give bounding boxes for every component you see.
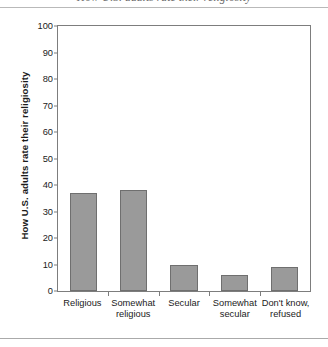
y-axis-tick-mark [54, 185, 58, 186]
y-axis-tick-mark [54, 52, 58, 53]
y-axis-tick-mark [54, 132, 58, 133]
bottom-divider [0, 338, 328, 339]
y-axis-tick-mark [54, 238, 58, 239]
y-axis-tick-mark [54, 211, 58, 212]
x-axis-tick-mark [209, 291, 210, 296]
page-caption: How U.S. adults rate their religiosity [0, 0, 328, 7]
y-axis-tick-mark [54, 264, 58, 265]
bar-cell [58, 26, 108, 291]
bar-cell [209, 26, 259, 291]
x-axis-tick-label-line: Secular [159, 298, 210, 309]
bar-cell [108, 26, 158, 291]
x-axis-tick-label-line: religious [108, 309, 159, 320]
bar-series [58, 26, 310, 291]
x-axis-tick-label: Secular [159, 298, 210, 321]
y-axis-tick-mark [54, 79, 58, 80]
bar-cell [159, 26, 209, 291]
plot-area: 0102030405060708090100 [57, 25, 311, 292]
bar[interactable] [221, 275, 248, 291]
x-axis-tick-label: Don't know,refused [260, 298, 311, 321]
bar[interactable] [271, 267, 298, 291]
y-axis-tick-mark [54, 291, 58, 292]
x-axis-tick-label: Religious [57, 298, 108, 321]
bar[interactable] [170, 265, 197, 292]
y-axis-tick-mark [54, 105, 58, 106]
x-axis-tick-label-line: Don't know, [260, 298, 311, 309]
bar-chart-figure: How U.S. adults rate their religiosity 0… [0, 8, 328, 338]
y-axis-tick-mark [54, 26, 58, 27]
x-axis-tick-mark [260, 291, 261, 296]
x-axis-tick-label-line: Somewhat [209, 298, 260, 309]
x-axis-tick-label: Somewhatreligious [108, 298, 159, 321]
page-caption-text: How U.S. adults rate their religiosity [0, 0, 328, 3]
x-axis-tick-label-line: secular [209, 309, 260, 320]
x-axis-tick-label-line: Somewhat [108, 298, 159, 309]
x-axis-tick-labels: ReligiousSomewhatreligiousSecularSomewha… [57, 298, 311, 321]
x-axis-tick-label: Somewhatsecular [209, 298, 260, 321]
bar-cell [260, 26, 310, 291]
y-axis-tick-mark [54, 158, 58, 159]
y-axis-title: How U.S. adults rate their religiosity [19, 46, 30, 266]
x-axis-tick-mark [159, 291, 160, 296]
x-axis-tick-label-line: Religious [57, 298, 108, 309]
bar[interactable] [70, 193, 97, 291]
bar[interactable] [120, 190, 147, 291]
x-axis-tick-mark [108, 291, 109, 296]
x-axis-tick-label-line: refused [260, 309, 311, 320]
